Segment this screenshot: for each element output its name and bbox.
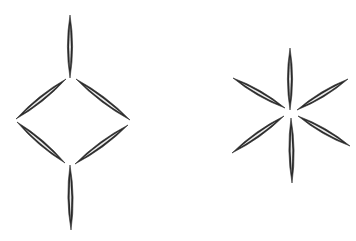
diagram-canvas [0,0,356,241]
background [0,0,356,241]
